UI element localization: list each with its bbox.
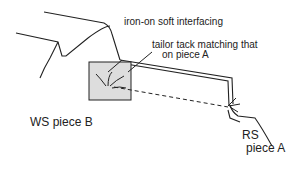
label-tailor-tack: tailor tack matching that on piece A bbox=[152, 40, 258, 60]
label-ws-piece-b: WS piece B bbox=[30, 115, 93, 129]
label-rs-piece-a: RS piece A bbox=[232, 129, 285, 155]
label-interfacing: iron-on soft interfacing bbox=[124, 16, 223, 27]
sewing-diagram: iron-on soft interfacing tailor tack mat… bbox=[0, 0, 303, 169]
label-rs-line2: piece A bbox=[232, 142, 285, 155]
piece-b-fold-top bbox=[44, 12, 120, 60]
label-tack-line2: on piece A bbox=[152, 50, 258, 60]
interfacing-patch bbox=[89, 62, 131, 100]
